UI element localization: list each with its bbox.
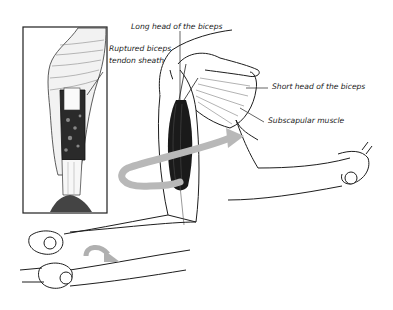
right-forearm (228, 120, 372, 200)
illustration-drawing (0, 0, 393, 310)
forearm-supination-arrow (86, 247, 120, 262)
biceps-muscle (168, 100, 192, 190)
label-ruptured-sheath-line2: tendon sheath (109, 57, 164, 66)
anatomy-illustration: Long head of the biceps Ruptured biceps … (0, 0, 393, 310)
label-ruptured-sheath-line1: Ruptured biceps (109, 45, 171, 54)
inset-ruptured-tendon (23, 27, 107, 213)
label-subscapular-muscle: Subscapular muscle (268, 117, 344, 126)
label-short-head-biceps: Short head of the biceps (272, 83, 365, 92)
label-long-head-biceps: Long head of the biceps (131, 23, 222, 32)
upper-arm (158, 64, 199, 225)
